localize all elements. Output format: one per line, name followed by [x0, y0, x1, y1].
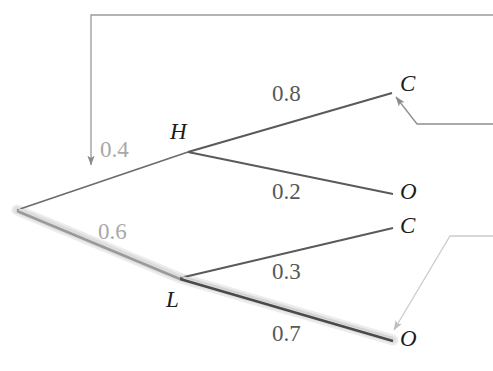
callout-LO-node-arrow: [394, 236, 493, 330]
node-label-L: L: [166, 288, 179, 311]
highlighted-path-glow: [17, 210, 393, 340]
edge-label-H-O: 0.2: [272, 180, 301, 203]
edge-label-root-L: 0.6: [98, 220, 127, 243]
edge-label-H-C: 0.8: [272, 82, 301, 105]
callout-HC-node-arrow: [396, 97, 493, 124]
node-label-HO: O: [400, 180, 417, 203]
edge-label-L-C: 0.3: [272, 260, 301, 283]
tree-diagram-svg: [0, 0, 493, 371]
branch-edges: [17, 93, 393, 278]
node-label-H: H: [170, 120, 187, 143]
probability-tree-figure: H L C O C O 0.4 0.6 0.8 0.2 0.3 0.7: [0, 0, 493, 371]
edge-label-L-O: 0.7: [272, 322, 301, 345]
highlight-glow-halo: [17, 210, 393, 340]
node-label-LC: C: [400, 214, 415, 237]
edge-label-root-H: 0.4: [100, 138, 129, 161]
node-label-HC: C: [400, 72, 415, 95]
node-label-LO: O: [400, 327, 417, 350]
